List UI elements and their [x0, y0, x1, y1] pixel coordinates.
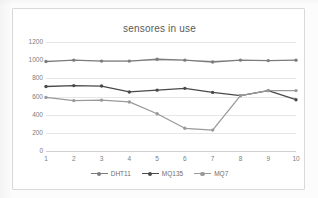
data-point-marker	[155, 58, 158, 61]
legend-item[interactable]: DHT11	[91, 170, 131, 177]
legend-label: MQ135	[162, 170, 183, 177]
data-point-marker	[100, 84, 103, 87]
x-axis-tick-label: 2	[64, 155, 84, 162]
data-point-marker	[294, 58, 297, 61]
data-point-marker	[211, 60, 214, 63]
y-axis-tick-label: 1000	[15, 56, 43, 63]
legend-swatch-icon	[142, 173, 159, 174]
legend-label: DHT11	[111, 170, 131, 177]
y-axis-tick-label: 600	[15, 93, 43, 100]
y-axis-tick-label: 1200	[15, 38, 43, 45]
data-point-marker	[155, 112, 158, 115]
data-point-marker	[44, 96, 47, 99]
legend-swatch-icon	[194, 173, 211, 174]
legend-item[interactable]: MQ135	[142, 170, 183, 177]
x-axis-tick-label: 4	[119, 155, 139, 162]
data-point-marker	[211, 128, 214, 131]
series-line	[46, 59, 296, 62]
data-point-marker	[100, 59, 103, 62]
data-point-marker	[44, 85, 47, 88]
series-line	[46, 91, 296, 131]
x-axis-tick-label: 3	[92, 155, 112, 162]
data-point-marker	[44, 60, 47, 63]
y-axis-tick-label: 400	[15, 111, 43, 118]
x-axis-labels: 12345678910	[46, 155, 296, 167]
x-axis-tick-label: 7	[203, 155, 223, 162]
data-point-marker	[183, 127, 186, 130]
data-point-marker	[267, 59, 270, 62]
data-point-marker	[183, 58, 186, 61]
legend-item[interactable]: MQ7	[194, 170, 228, 177]
legend-swatch-icon	[91, 173, 108, 174]
x-axis-tick-label: 6	[175, 155, 195, 162]
data-point-marker	[294, 98, 297, 101]
data-point-marker	[155, 88, 158, 91]
data-point-marker	[211, 91, 214, 94]
data-point-marker	[239, 58, 242, 61]
data-point-marker	[128, 59, 131, 62]
data-point-marker	[267, 89, 270, 92]
data-point-marker	[239, 94, 242, 97]
chart-container: sensores in use 020040060080010001200 12…	[12, 8, 305, 190]
screenshot-page: sensores in use 020040060080010001200 12…	[0, 0, 318, 198]
x-axis-tick-label: 10	[286, 155, 306, 162]
legend-label: MQ7	[214, 170, 228, 177]
x-axis-tick-label: 8	[230, 155, 250, 162]
series-lines	[46, 42, 296, 151]
x-axis-tick-label: 1	[36, 155, 56, 162]
y-axis-tick-label: 800	[15, 74, 43, 81]
x-axis-tick-label: 5	[147, 155, 167, 162]
data-point-marker	[128, 100, 131, 103]
data-point-marker	[72, 99, 75, 102]
x-axis-tick-label: 9	[258, 155, 278, 162]
data-point-marker	[128, 90, 131, 93]
chart-title: sensores in use	[13, 23, 306, 34]
data-point-marker	[183, 87, 186, 90]
data-point-marker	[294, 89, 297, 92]
chart-legend: DHT11MQ135MQ7	[13, 170, 306, 177]
data-point-marker	[72, 84, 75, 87]
gridline	[46, 151, 296, 152]
y-axis-tick-label: 200	[15, 129, 43, 136]
data-point-marker	[72, 58, 75, 61]
data-point-marker	[100, 98, 103, 101]
y-axis-tick-label: 0	[15, 147, 43, 154]
